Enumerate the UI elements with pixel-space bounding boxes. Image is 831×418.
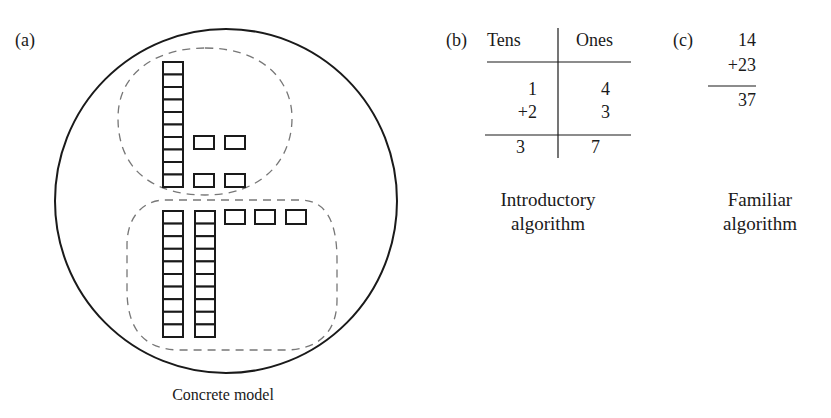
familiar-caption: Familiar algorithm xyxy=(700,188,820,236)
sum-ones: 7 xyxy=(585,137,600,158)
row2-tens: +2 xyxy=(497,102,537,123)
header-ones: Ones xyxy=(576,30,613,51)
sum-tens: 3 xyxy=(512,137,525,158)
addend-1: 14 xyxy=(715,30,756,51)
introductory-caption: Introductory algorithm xyxy=(478,188,618,236)
bottom-tens-rod-1 xyxy=(163,211,183,337)
top-group-outline xyxy=(118,48,292,195)
familiar-caption-line2: algorithm xyxy=(700,212,820,236)
bottom-tens-rod-2 xyxy=(195,211,215,337)
concrete-model-caption: Concrete model xyxy=(155,386,291,404)
addend-2: +23 xyxy=(700,55,756,76)
introductory-caption-line1: Introductory xyxy=(478,188,618,212)
bottom-ones-units xyxy=(225,210,306,224)
panel-c-label: (c) xyxy=(673,30,693,51)
sum-value: 37 xyxy=(715,90,756,111)
top-ones-units xyxy=(194,136,245,187)
header-tens: Tens xyxy=(487,30,521,51)
top-tens-rod xyxy=(163,62,183,187)
familiar-caption-line1: Familiar xyxy=(700,188,820,212)
introductory-caption-line2: algorithm xyxy=(478,212,618,236)
outer-circle xyxy=(55,29,397,373)
row2-ones: 3 xyxy=(585,102,610,123)
row1-ones: 4 xyxy=(585,79,610,100)
row1-tens: 1 xyxy=(512,79,537,100)
panel-b-label: (b) xyxy=(446,30,467,51)
